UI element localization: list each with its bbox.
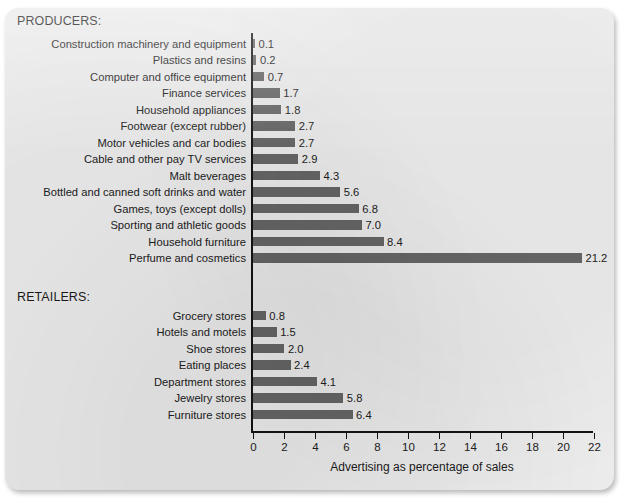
bar-value-label: 1.8 [285,103,301,117]
x-tick-mark [439,433,441,439]
bar [253,171,320,180]
bar-category-label: Motor vehicles and car bodies [97,136,246,150]
bar-value-label: 7.0 [365,218,381,232]
bar-value-label: 6.4 [356,408,372,422]
bar-row: Furniture stores6.4 [5,407,614,424]
x-tick-label: 8 [364,440,390,454]
bar-category-label: Malt beverages [170,169,247,183]
bar-value-label: 0.7 [268,70,284,84]
bar-row: Games, toys (except dolls)6.8 [5,201,614,218]
x-tick-mark [377,433,379,439]
x-tick-mark [315,433,317,439]
bar-value-label: 21.2 [586,251,608,265]
bar-value-label: 4.3 [324,169,340,183]
bar-category-label: Jewelry stores [175,391,247,405]
bar-row: Cable and other pay TV services2.9 [5,151,614,168]
x-tick-label: 6 [333,440,359,454]
bar-value-label: 0.2 [260,53,276,67]
bar [253,410,352,419]
bar [253,360,290,369]
bar-category-label: Finance services [162,86,246,100]
bar [253,377,317,386]
bar-value-label: 2.4 [294,358,310,372]
x-tick-mark [470,433,472,439]
x-tick-label: 0 [240,440,266,454]
bar-value-label: 2.7 [299,136,315,150]
x-tick-mark [284,433,286,439]
bar [253,39,255,48]
bar-value-label: 2.7 [299,119,315,133]
x-tick-label: 18 [519,440,545,454]
section-heading-producers: PRODUCERS: [17,14,101,28]
bar-value-label: 2.9 [302,152,318,166]
bar-row: Perfume and cosmetics21.2 [5,250,614,267]
bar-category-label: Construction machinery and equipment [51,37,246,51]
bar-category-label: Bottled and canned soft drinks and water [43,185,246,199]
bar [253,88,279,97]
x-tick-label: 10 [395,440,421,454]
bar-row: Bottled and canned soft drinks and water… [5,184,614,201]
x-tick-label: 16 [488,440,514,454]
bar-category-label: Grocery stores [173,309,246,323]
bar-category-label: Sporting and athletic goods [110,218,246,232]
bar [253,187,340,196]
bar-row: Household appliances1.8 [5,102,614,119]
bar-category-label: Shoe stores [186,342,246,356]
bar-row: Eating places2.4 [5,357,614,374]
bar-value-label: 4.1 [320,375,336,389]
x-tick-mark [501,433,503,439]
bar-row: Grocery stores0.8 [5,308,614,325]
bar-category-label: Furniture stores [168,408,246,422]
bar-category-label: Household furniture [148,235,246,249]
x-axis-title: Advertising as percentage of sales [251,460,593,474]
bar-row: Department stores4.1 [5,374,614,391]
x-tick-mark [408,433,410,439]
bar [253,154,298,163]
bar-value-label: 0.8 [269,309,285,323]
bar [253,311,265,320]
bar [253,138,295,147]
bar [253,253,582,262]
bar-row: Malt beverages4.3 [5,168,614,185]
bar-value-label: 1.7 [283,86,299,100]
x-tick-mark [563,433,565,439]
bar [253,105,281,114]
bar [253,327,276,336]
bar-category-label: Footwear (except rubber) [120,119,246,133]
bar-row: Household furniture8.4 [5,234,614,251]
bar-category-label: Plastics and resins [153,53,246,67]
bar-value-label: 1.5 [280,325,296,339]
bar-category-label: Household appliances [136,103,246,117]
bar-category-label: Department stores [154,375,246,389]
bar-category-label: Cable and other pay TV services [84,152,246,166]
bar-row: Hotels and motels1.5 [5,324,614,341]
bar-row: Shoe stores2.0 [5,341,614,358]
bar-category-label: Perfume and cosmetics [129,251,246,265]
bar-row: Sporting and athletic goods7.0 [5,217,614,234]
bar-row: Finance services1.7 [5,85,614,102]
x-axis-line [251,431,593,433]
bar-category-label: Computer and office equipment [90,70,246,84]
bar-chart-plot-area: PRODUCERS: RETAILERS: Construction machi… [5,8,614,490]
bar-value-label: 5.8 [347,391,363,405]
bar-value-label: 8.4 [387,235,403,249]
bar [253,72,264,81]
x-tick-label: 22 [581,440,607,454]
bar-row: Footwear (except rubber)2.7 [5,118,614,135]
x-tick-label: 14 [457,440,483,454]
x-tick-mark [594,433,596,439]
bar-value-label: 5.6 [344,185,360,199]
bar-row: Motor vehicles and car bodies2.7 [5,135,614,152]
bar [253,55,256,64]
bar-category-label: Eating places [179,358,246,372]
section-heading-retailers: RETAILERS: [17,290,90,304]
bar [253,393,343,402]
bar-row: Jewelry stores5.8 [5,390,614,407]
bar-category-label: Hotels and motels [156,325,246,339]
bar-value-label: 2.0 [288,342,304,356]
bar-category-label: Games, toys (except dolls) [114,202,246,216]
bar [253,344,284,353]
x-tick-label: 20 [550,440,576,454]
bar-value-label: 0.1 [259,37,275,51]
bar-row: Computer and office equipment0.7 [5,69,614,86]
